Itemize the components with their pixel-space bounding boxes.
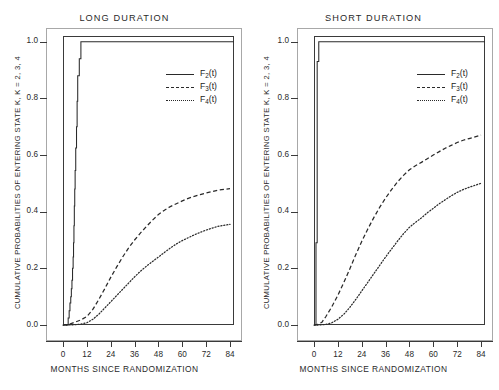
y-axis-title-long: CUMULATIVE PROBABILITIES OF ENTERING STA… bbox=[13, 33, 22, 333]
legend-key-dotted-icon bbox=[417, 100, 445, 101]
series-path-F3t bbox=[63, 189, 230, 325]
y-tick-mark bbox=[40, 98, 47, 99]
y-tick-label: 0.2 bbox=[255, 263, 289, 272]
x-tick-mark bbox=[409, 341, 410, 347]
panel-long-duration: LONG DURATION CUMULATIVE PROBABILITIES O… bbox=[0, 0, 249, 390]
legend-key-dashed-icon bbox=[166, 87, 194, 88]
y-tick-mark bbox=[291, 42, 298, 43]
x-tick-label: 0 bbox=[51, 350, 75, 359]
x-tick-label: 48 bbox=[146, 350, 170, 359]
y-tick-label: 0.0 bbox=[255, 320, 289, 329]
x-tick-mark bbox=[182, 341, 183, 347]
panel-title-long: LONG DURATION bbox=[0, 13, 249, 23]
x-tick-mark bbox=[314, 341, 315, 347]
y-tick-label: 0.6 bbox=[4, 150, 38, 159]
legend-label-f2: F2(t) bbox=[451, 68, 468, 78]
y-tick-mark bbox=[40, 325, 47, 326]
x-tick-mark bbox=[158, 341, 159, 347]
legend-short: F2(t) F3(t) F4(t) bbox=[417, 68, 489, 107]
x-tick-mark bbox=[457, 341, 458, 347]
x-axis-line-long bbox=[46, 341, 242, 342]
y-tick-mark bbox=[291, 98, 298, 99]
x-tick-mark bbox=[362, 341, 363, 347]
x-tick-label: 24 bbox=[99, 350, 123, 359]
y-tick-mark bbox=[291, 268, 298, 269]
y-tick-label: 0.4 bbox=[4, 206, 38, 215]
x-tick-mark bbox=[386, 341, 387, 347]
legend-key-solid-icon bbox=[417, 74, 445, 75]
x-tick-label: 84 bbox=[469, 350, 493, 359]
x-tick-mark bbox=[111, 341, 112, 347]
x-tick-mark bbox=[135, 341, 136, 347]
legend-label-f4: F4(t) bbox=[200, 94, 217, 104]
x-tick-label: 48 bbox=[397, 350, 421, 359]
y-tick-label: 0.4 bbox=[255, 206, 289, 215]
y-tick-label: 0.8 bbox=[255, 93, 289, 102]
y-tick-label: 0.6 bbox=[255, 150, 289, 159]
x-tick-label: 0 bbox=[302, 350, 326, 359]
x-axis-title-short: MONTHS SINCE RANDOMIZATION bbox=[249, 364, 498, 374]
y-tick-label: 0.8 bbox=[4, 93, 38, 102]
legend-label-f4: F4(t) bbox=[451, 94, 468, 104]
y-axis-title-short: CUMULATIVE PROBABILITIES OF ENTERING STA… bbox=[262, 33, 271, 333]
y-tick-label: 0.0 bbox=[4, 320, 38, 329]
y-tick-mark bbox=[40, 212, 47, 213]
x-axis-title-long: MONTHS SINCE RANDOMIZATION bbox=[0, 364, 249, 374]
series-path-F3t bbox=[314, 135, 481, 325]
legend-key-dotted-icon bbox=[166, 100, 194, 101]
legend-long: F2(t) F3(t) F4(t) bbox=[166, 68, 238, 107]
y-tick-label: 0.2 bbox=[4, 263, 38, 272]
y-tick-mark bbox=[291, 212, 298, 213]
x-tick-mark bbox=[230, 341, 231, 347]
legend-row-f4: F4(t) bbox=[417, 94, 489, 107]
y-tick-mark bbox=[291, 325, 298, 326]
x-axis-line-short bbox=[297, 341, 493, 342]
x-tick-mark bbox=[338, 341, 339, 347]
y-tick-mark bbox=[40, 155, 47, 156]
y-tick-label: 1.0 bbox=[4, 36, 38, 45]
x-tick-label: 24 bbox=[350, 350, 374, 359]
legend-row-f3: F3(t) bbox=[417, 81, 489, 94]
x-tick-mark bbox=[63, 341, 64, 347]
legend-label-f3: F3(t) bbox=[451, 81, 468, 91]
panel-title-short: SHORT DURATION bbox=[249, 13, 498, 23]
x-tick-mark bbox=[87, 341, 88, 347]
y-tick-mark bbox=[40, 268, 47, 269]
x-tick-label: 72 bbox=[445, 350, 469, 359]
x-tick-label: 60 bbox=[170, 350, 194, 359]
figure-canvas: LONG DURATION CUMULATIVE PROBABILITIES O… bbox=[0, 0, 499, 390]
x-tick-mark bbox=[206, 341, 207, 347]
x-tick-mark bbox=[481, 341, 482, 347]
x-tick-label: 36 bbox=[374, 350, 398, 359]
y-tick-mark bbox=[40, 42, 47, 43]
legend-key-solid-icon bbox=[166, 74, 194, 75]
y-tick-label: 1.0 bbox=[255, 36, 289, 45]
x-tick-label: 84 bbox=[218, 350, 242, 359]
x-tick-label: 12 bbox=[75, 350, 99, 359]
series-path-F4t bbox=[63, 224, 230, 325]
x-tick-label: 60 bbox=[421, 350, 445, 359]
legend-row-f4: F4(t) bbox=[166, 94, 238, 107]
panel-short-duration: SHORT DURATION CUMULATIVE PROBABILITIES … bbox=[249, 0, 498, 390]
legend-row-f3: F3(t) bbox=[166, 81, 238, 94]
y-tick-mark bbox=[291, 155, 298, 156]
legend-label-f3: F3(t) bbox=[200, 81, 217, 91]
legend-row-f2: F2(t) bbox=[166, 68, 238, 81]
legend-key-dashed-icon bbox=[417, 87, 445, 88]
x-tick-mark bbox=[433, 341, 434, 347]
series-path-F4t bbox=[314, 183, 481, 325]
x-tick-label: 12 bbox=[326, 350, 350, 359]
x-tick-label: 72 bbox=[194, 350, 218, 359]
x-tick-label: 36 bbox=[123, 350, 147, 359]
legend-row-f2: F2(t) bbox=[417, 68, 489, 81]
legend-label-f2: F2(t) bbox=[200, 68, 217, 78]
